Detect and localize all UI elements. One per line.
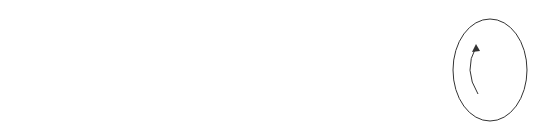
cylinder-end-face [453, 19, 527, 121]
cylinder-diagram [0, 0, 554, 139]
